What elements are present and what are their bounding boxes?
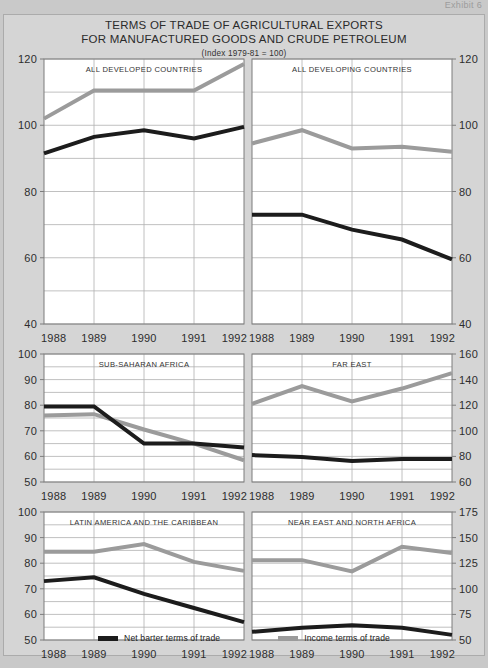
legend-label-income: Income terms of trade: [304, 633, 390, 643]
y-tick-label: 100: [18, 350, 37, 360]
y-tick-label: 100: [459, 425, 478, 437]
x-tick-label: 1989: [81, 332, 106, 344]
x-tick-label: 1989: [289, 648, 314, 660]
y-tick-label: 70: [24, 583, 37, 595]
y-tick-label: 40: [459, 318, 472, 330]
y-tick-label: 60: [459, 476, 472, 488]
x-tick-label: 1990: [339, 332, 364, 344]
y-tick-label: 100: [18, 119, 37, 131]
x-tick-label: 1991: [181, 648, 206, 660]
legend-swatch-net_barter: [98, 636, 118, 641]
x-tick-label: 1989: [289, 332, 314, 344]
x-tick-label: 1992: [222, 332, 247, 344]
x-tick-label: 1988: [249, 490, 274, 502]
figure-title-line-2: FOR MANUFACTURED GOODS AND CRUDE PETROLE…: [4, 33, 484, 47]
panel-title-far-east: FAR EAST: [332, 360, 372, 369]
y-tick-label: 100: [459, 119, 478, 131]
page-canvas: Exhibit 6 TERMS OF TRADE OF AGRICULTURAL…: [0, 0, 488, 668]
x-tick-label: 1988: [41, 648, 66, 660]
x-tick-label: 1991: [389, 648, 414, 660]
y-tick-label: 140: [459, 374, 478, 386]
chart-panel-all-developing-countries: ALL DEVELOPING COUNTRIES4060801001201988…: [248, 55, 486, 350]
y-tick-label: 160: [459, 350, 478, 360]
legend-swatch-income: [278, 636, 298, 641]
x-tick-label: 1992: [222, 490, 247, 502]
y-tick-label: 50: [24, 476, 37, 488]
panel-title-near-east-and-north-africa: NEAR EAST AND NORTH AFRICA: [288, 518, 417, 527]
x-tick-label: 1991: [181, 332, 206, 344]
y-tick-label: 125: [459, 557, 478, 569]
x-tick-label: 1992: [430, 490, 455, 502]
y-tick-label: 60: [459, 252, 472, 264]
x-tick-label: 1988: [41, 332, 66, 344]
x-tick-label: 1989: [81, 648, 106, 660]
y-tick-label: 60: [24, 252, 37, 264]
figure-title-line-1: TERMS OF TRADE OF AGRICULTURAL EXPORTS: [4, 19, 484, 33]
y-tick-label: 60: [24, 608, 37, 620]
x-tick-label: 1988: [249, 648, 274, 660]
chart-panel-all-developed-countries: ALL DEVELOPED COUNTRIES40608010012019881…: [10, 55, 248, 350]
y-tick-label: 70: [24, 425, 37, 437]
x-tick-label: 1991: [181, 490, 206, 502]
x-tick-label: 1988: [41, 490, 66, 502]
figure-sheet: TERMS OF TRADE OF AGRICULTURAL EXPORTS F…: [3, 14, 485, 656]
y-tick-label: 175: [459, 508, 478, 518]
y-tick-label: 80: [24, 399, 37, 411]
x-tick-label: 1992: [430, 648, 455, 660]
y-tick-label: 80: [24, 186, 37, 198]
x-tick-label: 1992: [222, 648, 247, 660]
panel-title-latin-america-and-the-caribbean: LATIN AMERICA AND THE CARIBBEAN: [70, 518, 219, 527]
y-tick-label: 100: [18, 508, 37, 518]
legend-entry-net_barter: Net barter terms of trade: [98, 633, 220, 643]
y-tick-label: 90: [24, 532, 37, 544]
y-tick-label: 90: [24, 374, 37, 386]
x-tick-label: 1990: [339, 648, 364, 660]
y-tick-label: 75: [459, 608, 472, 620]
x-tick-label: 1991: [389, 490, 414, 502]
x-tick-label: 1990: [131, 490, 156, 502]
y-tick-label: 80: [24, 557, 37, 569]
panel-title-all-developing-countries: ALL DEVELOPING COUNTRIES: [292, 65, 412, 74]
scan-header-text: Exhibit 6: [445, 0, 482, 10]
y-tick-label: 100: [459, 583, 478, 595]
chart-panel-far-east: FAR EAST60801001201401601988198919901991…: [248, 350, 486, 508]
y-tick-label: 150: [459, 532, 478, 544]
x-tick-label: 1989: [81, 490, 106, 502]
figure-legend: Net barter terms of tradeIncome terms of…: [4, 633, 484, 643]
x-tick-label: 1990: [131, 648, 156, 660]
y-tick-label: 120: [459, 399, 478, 411]
x-tick-label: 1988: [249, 332, 274, 344]
x-tick-label: 1992: [430, 332, 455, 344]
panel-title-all-developed-countries: ALL DEVELOPED COUNTRIES: [86, 65, 203, 74]
y-tick-label: 120: [18, 55, 37, 65]
figure-title-block: TERMS OF TRADE OF AGRICULTURAL EXPORTS F…: [4, 19, 484, 58]
y-tick-label: 60: [24, 450, 37, 462]
x-tick-label: 1989: [289, 490, 314, 502]
x-tick-label: 1991: [389, 332, 414, 344]
chart-panel-sub-saharan-africa: SUB-SAHARAN AFRICA5060708090100198819891…: [10, 350, 248, 508]
x-tick-label: 1990: [339, 490, 364, 502]
x-tick-label: 1990: [131, 332, 156, 344]
y-tick-label: 40: [24, 318, 37, 330]
legend-label-net_barter: Net barter terms of trade: [124, 633, 220, 643]
legend-entry-income: Income terms of trade: [278, 633, 390, 643]
panel-title-sub-saharan-africa: SUB-SAHARAN AFRICA: [99, 360, 190, 369]
y-tick-label: 80: [459, 186, 472, 198]
y-tick-label: 120: [459, 55, 478, 65]
y-tick-label: 80: [459, 450, 472, 462]
